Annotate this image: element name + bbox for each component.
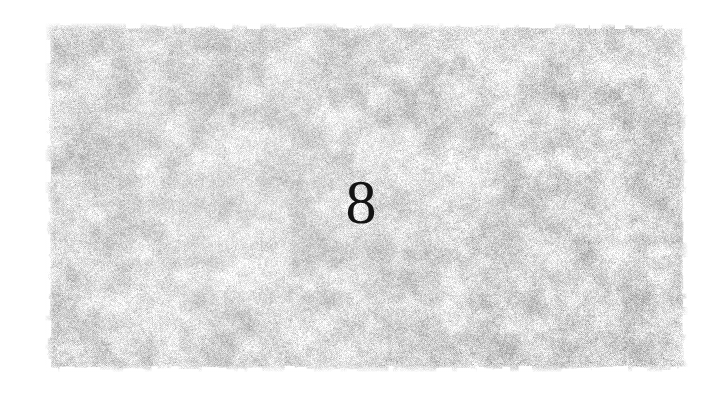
scanned-page: 8	[0, 0, 722, 397]
page-number: 8	[0, 172, 722, 234]
